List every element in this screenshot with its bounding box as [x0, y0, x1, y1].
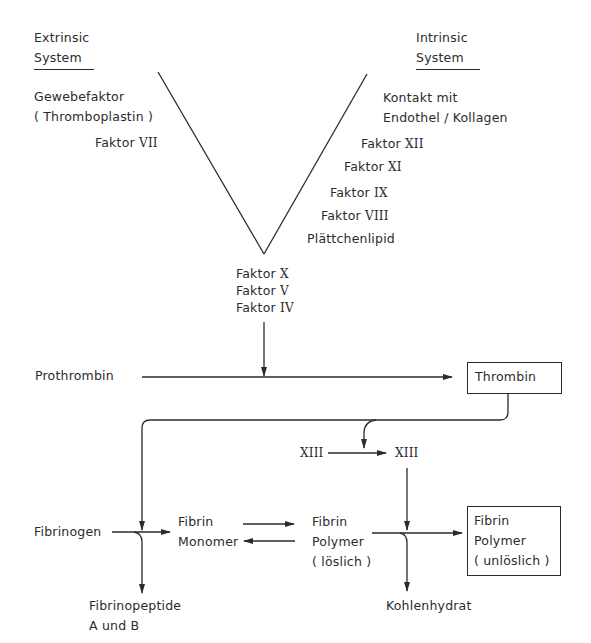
thrombin-to-xiii-arrow [364, 420, 376, 448]
roman-numeral: XII [405, 137, 424, 151]
roman-numeral: IV [280, 301, 294, 315]
fibrinopeptide-release-arrow [134, 532, 142, 593]
kohlenhydrat-label: Kohlenhydrat [386, 596, 472, 616]
extrinsic-system-title: Extrinsic System [34, 28, 94, 70]
plaettchenlipid-label: Plättchenlipid [307, 229, 395, 249]
roman-numeral: V [280, 284, 289, 298]
fibrin-monomer-label: Fibrin Monomer [178, 512, 238, 552]
faktor-viii-label: Faktor VIII [321, 206, 389, 226]
roman-numeral: XI [388, 160, 402, 174]
faktor-xii-label: Faktor XII [361, 134, 424, 154]
faktor-vii-label: Faktor VII [95, 133, 158, 153]
fibrin-polymer-insoluble-box: Fibrin Polymer ( unlöslich ) [467, 506, 561, 576]
prothrombin-label: Prothrombin [35, 366, 114, 386]
roman-numeral: VIII [365, 209, 389, 223]
roman-numeral: X [280, 267, 289, 281]
fibrinogen-label: Fibrinogen [34, 522, 101, 542]
faktor-iv-label: Faktor IV [236, 298, 294, 318]
roman-numeral: IX [374, 186, 388, 200]
extrinsic-pathway-line [158, 72, 264, 254]
roman-numeral: VII [139, 136, 158, 150]
thrombin-feedback-line [142, 394, 508, 530]
kohlenhydrat-release-arrow [400, 533, 407, 591]
xiii-active-label: XIII [395, 443, 419, 463]
xiii-inactive-label: XIII [300, 443, 324, 463]
fibrinopeptide-label: Fibrinopeptide A und B [89, 596, 181, 636]
thrombin-box: Thrombin [467, 362, 562, 394]
fibrin-polymer-insoluble-label: Fibrin Polymer ( unlöslich ) [474, 511, 550, 571]
intrinsic-system-title: Intrinsic System [416, 28, 480, 70]
faktor-xi-label: Faktor XI [344, 157, 402, 177]
fibrin-polymer-soluble-label: Fibrin Polymer ( löslich ) [312, 512, 371, 572]
gewebefaktor-label: Gewebefaktor ( Thromboplastin ) [34, 87, 153, 127]
faktor-ix-label: Faktor IX [330, 183, 388, 203]
kontakt-label: Kontakt mit Endothel / Kollagen [383, 88, 508, 128]
thrombin-label: Thrombin [475, 367, 536, 387]
